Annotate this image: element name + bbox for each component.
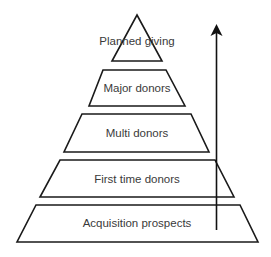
- tier-major-donors: Major donors: [89, 70, 185, 106]
- tier-planned-giving: Planned giving: [99, 15, 174, 61]
- tier-label: Multi donors: [106, 127, 169, 139]
- upward-arrow-icon: [211, 24, 223, 230]
- tier-label: First time donors: [94, 173, 180, 185]
- donor-pyramid-diagram: Planned giving Major donors Multi donors…: [0, 0, 271, 257]
- tier-label: Planned giving: [99, 35, 174, 47]
- tier-label: Major donors: [103, 82, 170, 94]
- tier-multi-donors: Multi donors: [64, 114, 209, 152]
- tier-label: Acquisition prospects: [83, 217, 192, 229]
- tier-first-time-donors: First time donors: [40, 160, 234, 197]
- tier-acquisition-prospects: Acquisition prospects: [17, 205, 258, 242]
